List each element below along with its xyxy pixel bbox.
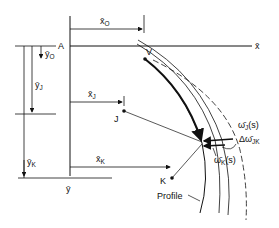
yK-label: ȳK [27, 157, 37, 168]
offset-curve-K [137, 44, 220, 213]
y-axis-label: ȳ [66, 184, 71, 194]
profile-curve [145, 59, 206, 213]
wK-label: ω̄K(s) [214, 155, 236, 166]
point-J-label: J [114, 114, 119, 124]
x0-label: x̄O [100, 16, 110, 27]
point-V-label: V [146, 47, 152, 57]
point-K-label: K [160, 176, 166, 186]
yJ-label: ȳJ [35, 80, 43, 91]
profile-leader [188, 195, 200, 201]
origin-label: A [58, 41, 64, 51]
y0-label: ȳO [45, 49, 55, 60]
diagram-canvas: A x̄ ȳ V J K x̄O ȳO ȳJ x̄J ȳK x̄K ω̄J(s)… [0, 0, 279, 228]
dwJK-label: Δω̄JK [239, 134, 260, 145]
line-K-to-profile [172, 144, 202, 178]
wK-arrow [204, 145, 225, 146]
wJ-arrow [204, 139, 233, 141]
x-axis-label: x̄ [255, 41, 260, 51]
offset-curve-J [138, 40, 229, 215]
xJ-label: x̄J [88, 89, 96, 100]
wJ-label: ω̄J(s) [238, 120, 259, 131]
profile-label: Profile [157, 191, 183, 201]
xK-label: x̄K [96, 154, 106, 165]
